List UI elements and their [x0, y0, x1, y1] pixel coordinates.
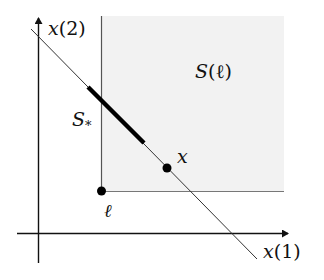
- diagram-canvas: x(2) x(1) S(ℓ) S* x ℓ: [0, 0, 324, 280]
- point-l-label: ℓ: [104, 200, 112, 221]
- point-x: [163, 164, 172, 173]
- point-x-label: x: [177, 145, 188, 167]
- segment-label: S*: [72, 108, 92, 133]
- point-l: [97, 187, 106, 196]
- y-axis-label: x(2): [48, 17, 86, 39]
- region-label: S(ℓ): [195, 60, 232, 82]
- region-s-l: [101, 16, 284, 191]
- x-axis-label: x(1): [263, 240, 301, 262]
